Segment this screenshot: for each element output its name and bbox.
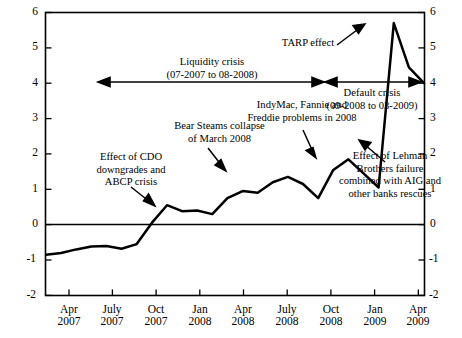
annotation-cdo-abcp-line1: Effect of CDO — [82, 151, 180, 164]
annotation-tarp-effect: TARP effect — [277, 37, 339, 50]
y-tick-right-5: 5 — [430, 40, 454, 52]
y-tick-right-4: 4 — [430, 76, 454, 88]
annotation-indymac-fannie-freddie: IndyMac, Fannie and Freddie problems in … — [238, 99, 366, 124]
y-tick-right-3: 3 — [430, 111, 454, 123]
y-tick-left-neg2: -2 — [12, 288, 36, 300]
x-tick-year: 2009 — [388, 315, 448, 327]
y-tick-left-3: 3 — [14, 111, 38, 123]
annotation-lehman-line3: combined with AIG and — [329, 175, 451, 188]
y-tick-right-neg1: -1 — [429, 252, 453, 264]
annotation-bear-stearns-line2: of March 2008 — [163, 133, 276, 146]
annotation-tarp-effect-line1: TARP effect — [277, 37, 339, 50]
annotation-default-crisis-line1: Default crisis — [312, 87, 432, 100]
annotation-liquidity-crisis-line2: (07-2007 to 08-2008) — [150, 69, 274, 82]
annotation-lehman-line1: Effect of Lehman — [329, 150, 451, 163]
annotation-lehman-aig: Effect of Lehman Brothers failure combin… — [329, 150, 451, 200]
y-tick-left-4: 4 — [14, 76, 38, 88]
y-tick-left-5: 5 — [14, 40, 38, 52]
annotation-indymac-line1: IndyMac, Fannie and — [238, 99, 366, 112]
annotation-indymac-line2: Freddie problems in 2008 — [238, 112, 366, 125]
y-tick-left-6: 6 — [14, 5, 38, 17]
annotation-cdo-abcp: Effect of CDO downgrades and ABCP crisis — [82, 151, 180, 189]
x-tick-month: Apr — [388, 303, 448, 315]
y-tick-right-6: 6 — [430, 5, 454, 17]
annotation-lehman-line4: other banks rescues — [329, 188, 451, 201]
y-tick-left-neg1: -1 — [12, 252, 36, 264]
y-tick-left-0: 0 — [14, 217, 38, 229]
annotation-liquidity-crisis: Liquidity crisis (07-2007 to 08-2008) — [150, 56, 274, 81]
annotation-liquidity-crisis-line1: Liquidity crisis — [150, 56, 274, 69]
y-tick-right-0: 0 — [430, 217, 454, 229]
x-tick-apr-2009: Apr 2009 — [388, 303, 448, 327]
chart-figure: 6 5 4 3 2 1 0 -1 -2 6 5 4 3 2 1 0 -1 -2 … — [0, 0, 462, 338]
annotation-cdo-abcp-line2: downgrades and — [82, 164, 180, 177]
annotation-cdo-abcp-line3: ABCP crisis — [82, 176, 180, 189]
annotation-lehman-line2: Brothers failure — [329, 163, 451, 176]
y-tick-left-1: 1 — [14, 182, 38, 194]
y-tick-right-neg2: -2 — [429, 288, 453, 300]
y-tick-left-2: 2 — [14, 146, 38, 158]
